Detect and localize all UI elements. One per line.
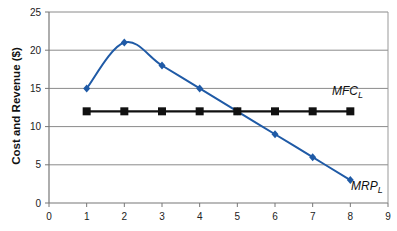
diamond-marker bbox=[196, 84, 203, 92]
data-series bbox=[83, 39, 355, 185]
axes bbox=[49, 12, 388, 203]
x-axis-ticks: 0123456789 bbox=[46, 203, 391, 222]
y-tick-label: 0 bbox=[35, 198, 41, 209]
y-axis-label: Cost and Revenue ($) bbox=[10, 46, 22, 166]
y-tick-label: 15 bbox=[30, 83, 42, 94]
x-tick-label: 1 bbox=[84, 211, 90, 222]
x-tick-label: 0 bbox=[46, 211, 52, 222]
square-marker bbox=[233, 107, 241, 115]
x-tick-label: 2 bbox=[122, 211, 128, 222]
x-tick-label: 5 bbox=[235, 211, 241, 222]
y-tick-label: 20 bbox=[30, 45, 42, 56]
x-tick-label: 7 bbox=[310, 211, 316, 222]
x-tick-label: 4 bbox=[197, 211, 203, 222]
diamond-marker bbox=[309, 153, 316, 161]
square-marker bbox=[158, 107, 166, 115]
x-tick-label: 8 bbox=[348, 211, 354, 222]
square-marker bbox=[346, 107, 354, 115]
x-tick-label: 6 bbox=[272, 211, 278, 222]
mfc-label: MFCL bbox=[332, 84, 363, 100]
series-labels: MFCL MRPL bbox=[332, 84, 383, 195]
square-marker bbox=[196, 107, 204, 115]
mrp-label: MRPL bbox=[351, 179, 383, 195]
x-tick-label: 3 bbox=[159, 211, 165, 222]
y-tick-label: 5 bbox=[35, 159, 41, 170]
y-tick-label: 25 bbox=[30, 7, 42, 18]
square-marker bbox=[309, 107, 317, 115]
square-marker bbox=[83, 107, 91, 115]
square-marker bbox=[120, 107, 128, 115]
square-marker bbox=[271, 107, 279, 115]
diamond-marker bbox=[272, 130, 279, 138]
x-tick-label: 9 bbox=[385, 211, 391, 222]
y-tick-label: 10 bbox=[30, 121, 42, 132]
y-axis-ticks: 0510152025 bbox=[30, 7, 49, 209]
diamond-marker bbox=[121, 39, 128, 47]
line-chart: 0510152025 0123456789 MFCL MRPL bbox=[0, 0, 397, 231]
